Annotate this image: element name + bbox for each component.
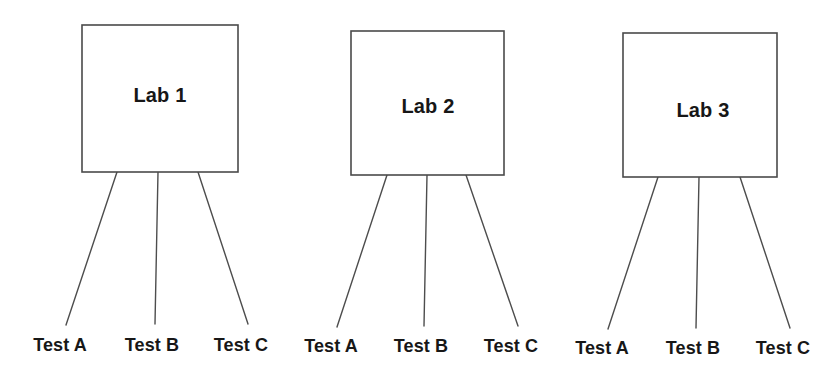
connector-line-lab2-test-a [337,175,387,327]
lab-label-1: Lab 1 [133,84,186,106]
test-label-lab1-test-b: Test B [125,335,179,355]
connector-line-lab2-test-c [466,175,518,326]
lab-group-3: Lab 3Test ATest BTest C [575,33,810,358]
connector-line-lab1-test-a [66,172,117,325]
connector-line-lab3-test-c [740,177,790,328]
lab-test-tree-diagram: Lab 1Test ATest BTest CLab 2Test ATest B… [0,0,836,370]
test-label-lab1-test-a: Test A [33,335,87,355]
test-label-lab2-test-a: Test A [304,336,358,356]
test-label-lab3-test-a: Test A [575,338,629,358]
diagram-root: Lab 1Test ATest BTest CLab 2Test ATest B… [33,25,810,358]
test-label-lab2-test-b: Test B [394,336,448,356]
test-label-lab3-test-c: Test C [756,338,810,358]
connector-line-lab3-test-a [608,177,658,329]
connector-line-lab3-test-b [696,177,699,328]
connector-line-lab1-test-c [198,172,248,324]
test-label-lab1-test-c: Test C [214,335,268,355]
test-label-lab3-test-b: Test B [666,338,720,358]
lab-label-3: Lab 3 [676,99,729,121]
lab-label-2: Lab 2 [401,95,454,117]
lab-group-2: Lab 2Test ATest BTest C [304,31,538,356]
connector-line-lab1-test-b [155,172,158,324]
lab-group-1: Lab 1Test ATest BTest C [33,25,268,355]
diagram-canvas: Lab 1Test ATest BTest CLab 2Test ATest B… [0,0,836,370]
test-label-lab2-test-c: Test C [484,336,538,356]
connector-line-lab2-test-b [424,175,427,326]
